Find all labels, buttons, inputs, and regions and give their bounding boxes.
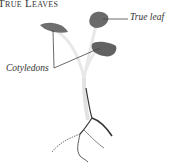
true-leaf-label: True leaf	[130, 12, 164, 22]
true-leaf	[89, 12, 108, 28]
stem	[55, 22, 98, 120]
roots	[52, 88, 112, 162]
cotyledon-pointer-right	[54, 48, 100, 68]
cotyledon-right	[92, 42, 117, 57]
cotyledons-label: Cotyledons	[6, 63, 49, 73]
cotyledon-pointer-left	[53, 30, 54, 68]
cotyledon-left	[40, 23, 68, 33]
seedling-illustration	[0, 0, 172, 166]
